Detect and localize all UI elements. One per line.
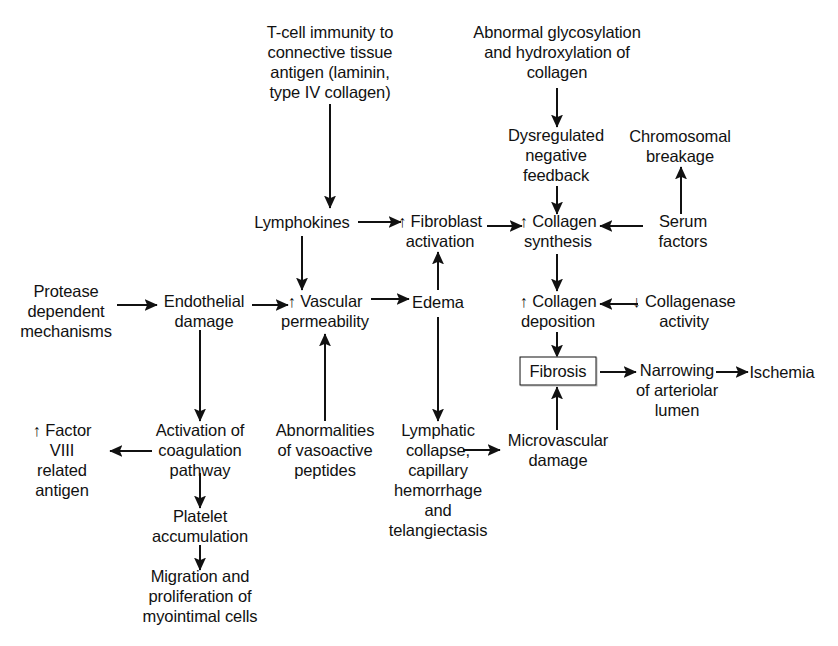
node-lymphokines: Lymphokines <box>254 212 350 232</box>
node-protease: Protease dependent mechanisms <box>20 281 112 341</box>
node-microvasc: Microvascular damage <box>508 430 608 470</box>
node-ischemia: Ischemia <box>749 362 814 382</box>
node-fibroblast: ↑ Fibroblast activation <box>398 211 482 251</box>
node-narrowing: Narrowing of arteriolar lumen <box>636 360 718 420</box>
node-abnormal: Abnormal glycosylation and hydroxylation… <box>473 22 640 82</box>
node-colldep: ↑ Collagen deposition <box>520 291 597 331</box>
node-dysregulated: Dysregulated negative feedback <box>508 125 604 185</box>
node-vasoactive: Abnormalities of vasoactive peptides <box>276 420 375 480</box>
node-migration: Migration and proliferation of myointima… <box>143 566 258 626</box>
node-serum: Serum factors <box>659 211 708 251</box>
node-chromosomal: Chromosomal breakage <box>629 126 731 166</box>
node-fibrosis: Fibrosis <box>520 357 597 386</box>
node-lymphatic: Lymphatic collapse, capillary hemorrhage… <box>389 420 488 540</box>
flow-diagram: T-cell immunity to connective tissue ant… <box>0 0 838 646</box>
node-vascular: ↑ Vascular permeability <box>281 291 369 331</box>
node-edema: Edema <box>412 292 464 312</box>
node-tcell: T-cell immunity to connective tissue ant… <box>267 22 394 102</box>
node-activation: Activation of coagulation pathway <box>156 420 245 480</box>
node-collsynth: ↑ Collagen synthesis <box>520 211 597 251</box>
node-endothelial: Endothelial damage <box>164 291 245 331</box>
node-collagenase: ↓ Collagenase activity <box>632 291 735 331</box>
node-platelet: Platelet accumulation <box>152 506 248 546</box>
node-factor8: ↑ Factor VIII related antigen <box>33 420 92 500</box>
